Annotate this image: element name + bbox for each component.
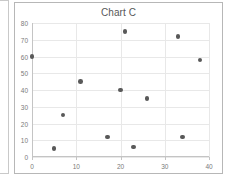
adjacent-object-frame [0,0,9,174]
x-axis-tick-mark [76,157,77,160]
scatter-point [180,135,185,140]
gridline-vertical [165,23,166,157]
x-axis-tick-mark [209,157,210,160]
x-axis-tick-mark [32,157,33,160]
y-axis-tick-label: 30 [21,103,28,110]
x-axis-tick-label: 0 [30,163,34,170]
y-axis-tick-label: 20 [21,120,28,127]
scatter-point [118,88,123,93]
y-axis-tick-label: 80 [21,20,28,27]
x-axis-tick-label: 40 [205,163,212,170]
scatter-point [176,34,181,39]
scatter-point [52,146,57,151]
gridline-vertical [76,23,77,157]
scatter-point [61,113,66,118]
x-axis-tick-mark [121,157,122,160]
y-axis-line [32,23,33,157]
scatter-point [131,145,136,150]
screenshot-canvas: Chart C 01020304050607080 010203040 [0,0,226,186]
y-axis-tick-label: 10 [21,137,28,144]
scatter-point [30,54,35,59]
y-axis-tick-label: 70 [21,36,28,43]
x-axis-tick-mark [165,157,166,160]
scatter-point [123,29,128,34]
scatter-point [198,58,203,63]
gridline-vertical [209,23,210,157]
x-axis-tick-label: 10 [73,163,80,170]
y-axis-tick-label: 60 [21,53,28,60]
scatter-point [145,96,150,101]
x-axis-tick-label: 30 [161,163,168,170]
plot-area[interactable]: 01020304050607080 010203040 [32,23,209,157]
y-axis-tick-label: 50 [21,70,28,77]
y-axis-tick-label: 0 [24,154,28,161]
scatter-point [78,79,83,84]
scatter-point [105,135,110,140]
chart-title: Chart C [15,7,222,18]
y-axis-tick-label: 40 [21,87,28,94]
chart-object[interactable]: Chart C 01020304050607080 010203040 [14,2,223,174]
x-axis-tick-label: 20 [117,163,124,170]
